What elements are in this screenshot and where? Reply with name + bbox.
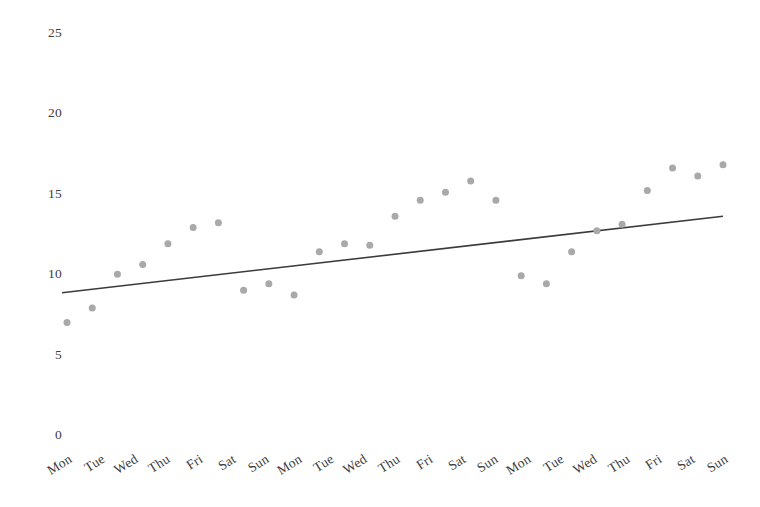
scatter-chart: 0510152025 MonTueWedThuFriSatSunMonTueWe… [0,0,760,507]
x-axis-tick-labels: MonTueWedThuFriSatSunMonTueWedThuFriSatS… [0,0,760,507]
